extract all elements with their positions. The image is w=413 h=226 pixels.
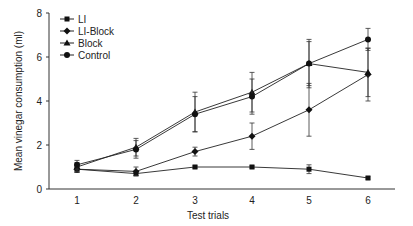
square-marker-icon (65, 17, 70, 22)
x-tick-label: 4 (249, 195, 255, 206)
data-point-marker (74, 162, 80, 168)
circle-marker-icon (64, 52, 70, 58)
series-li-block (74, 48, 372, 176)
data-point-marker (250, 165, 255, 170)
legend-item: Block (60, 38, 103, 49)
plot-area (74, 28, 372, 180)
data-point-marker (365, 36, 371, 42)
y-tick-label: 0 (36, 184, 42, 195)
data-point-marker (366, 176, 371, 181)
y-tick-label: 8 (36, 8, 42, 19)
x-tick-label: 2 (133, 195, 139, 206)
x-axis-label: Test trials (187, 210, 229, 221)
y-tick-label: 4 (36, 96, 42, 107)
legend-label: LI (78, 14, 86, 25)
legend-item: LI (60, 14, 86, 25)
series-line (77, 167, 368, 178)
data-point-marker (192, 148, 199, 155)
data-point-marker (193, 165, 198, 170)
diamond-marker-icon (64, 28, 71, 35)
series-li (75, 165, 371, 181)
data-point-marker (306, 106, 313, 113)
data-point-marker (133, 146, 139, 152)
x-tick-label: 1 (74, 195, 80, 206)
series-line (77, 75, 368, 172)
data-point-marker (249, 133, 256, 140)
line-chart: 02468123456 LILI-BlockBlockControl Test … (0, 0, 413, 226)
series-line (77, 64, 368, 167)
data-point-marker (249, 94, 255, 100)
legend-item: Control (60, 50, 110, 61)
y-tick-label: 2 (36, 140, 42, 151)
legend-label: LI-Block (78, 26, 115, 37)
x-tick-label: 3 (192, 195, 198, 206)
data-point-marker (192, 111, 198, 117)
series-control (74, 28, 371, 169)
legend: LILI-BlockBlockControl (60, 14, 115, 61)
data-point-marker (307, 167, 312, 172)
y-axis-label: Mean vinegar consumption (ml) (13, 31, 24, 171)
x-tick-label: 5 (306, 195, 312, 206)
legend-item: LI-Block (60, 26, 115, 37)
legend-label: Block (78, 38, 103, 49)
legend-label: Control (78, 50, 110, 61)
x-tick-label: 6 (365, 195, 371, 206)
y-tick-label: 6 (36, 52, 42, 63)
data-point-marker (306, 61, 312, 67)
